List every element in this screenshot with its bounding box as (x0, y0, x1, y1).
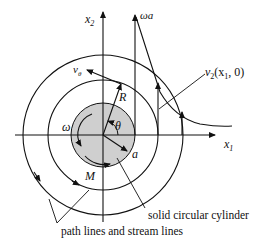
v-theta-label: vθ (73, 63, 82, 78)
cylinder-leader (117, 158, 145, 208)
x1-axis-label: x1 (223, 137, 233, 153)
omega-label: ω (62, 120, 70, 134)
path-lines-label: path lines and stream lines (61, 225, 184, 238)
x2-axis-label: x2 (84, 12, 94, 28)
path-lines-leader-inner (57, 190, 89, 223)
R-label: R (118, 90, 127, 104)
a-label: a (132, 147, 138, 161)
diagram-canvas: x2 x1 ωa vθ v2(x1, 0) R θ ω a M solid ci… (0, 0, 264, 246)
omega-a-label: ωa (140, 9, 154, 21)
v2-leader (159, 74, 205, 109)
v2-function-label: v2(x1, 0) (205, 65, 244, 81)
v-theta-arrow (87, 70, 121, 84)
solid-cylinder-label: solid circular cylinder (148, 209, 249, 222)
streamline-direction-arrow-inner (72, 181, 79, 185)
path-lines-leader-outer (49, 199, 57, 223)
theta-label: θ (115, 119, 121, 133)
M-label: M (84, 169, 96, 183)
